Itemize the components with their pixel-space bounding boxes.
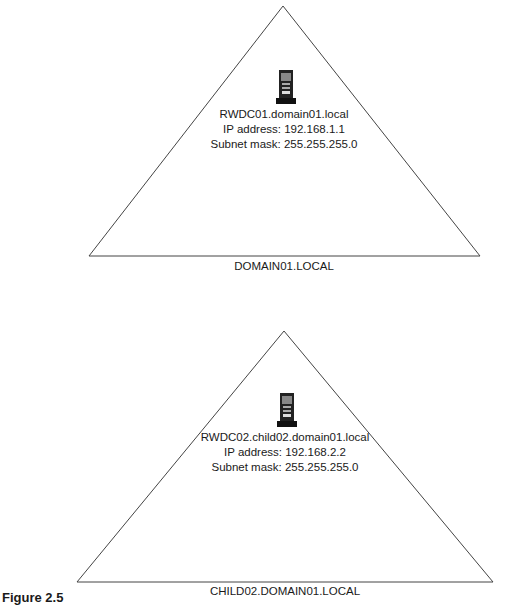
server-info-rwdc01: RWDC01.domain01.local IP address: 192.16… [200,107,368,152]
server-hostname: RWDC02.child02.domain01.local [190,430,380,445]
server-ip: IP address: 192.168.2.2 [190,445,380,460]
server-subnet: Subnet mask: 255.255.255.0 [200,137,368,152]
domain-label: DOMAIN01.LOCAL [200,259,368,274]
server-icon [276,70,296,106]
server-hostname: RWDC01.domain01.local [200,107,368,122]
server-info-rwdc02: RWDC02.child02.domain01.local IP address… [190,430,380,475]
domain-label: CHILD02.DOMAIN01.LOCAL [190,584,380,599]
diagram-canvas [0,0,513,605]
server-icon [277,393,297,429]
server-subnet: Subnet mask: 255.255.255.0 [190,460,380,475]
server-ip: IP address: 192.168.1.1 [200,122,368,137]
figure-caption: Figure 2.5 [2,590,63,605]
